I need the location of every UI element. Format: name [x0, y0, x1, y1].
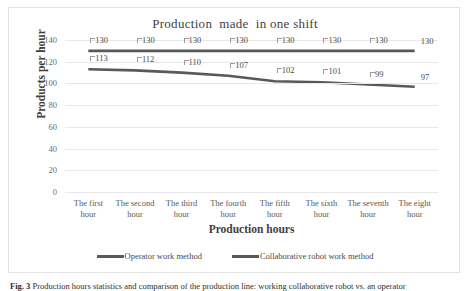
gridline [65, 62, 438, 63]
legend-item-1[interactable]: Operator work method [97, 251, 202, 261]
y-tick-label: 60 [17, 122, 57, 132]
gridline [65, 83, 438, 84]
data-label: 113 [95, 53, 107, 63]
y-tick-label: 20 [17, 165, 57, 175]
x-axis-tick-labels: The firsthourThe secondhourThe thirdhour… [65, 198, 438, 220]
data-label: 99 [375, 69, 384, 79]
x-category-label: The firsthour [65, 198, 112, 220]
caption-label: Fig. 3 [10, 281, 30, 291]
data-label: 130 [189, 35, 202, 45]
x-category-label: The fifthhour [252, 198, 299, 220]
data-label: 130 [235, 35, 248, 45]
data-label: 130 [95, 35, 108, 45]
x-category-label: The secondhour [112, 198, 159, 220]
data-label: 130 [282, 35, 295, 45]
x-category-label: The seventhhour [345, 198, 392, 220]
data-label: 130 [328, 35, 341, 45]
data-label: 102 [282, 65, 295, 75]
x-category-label: The sixthhour [298, 198, 345, 220]
y-tick-label: 40 [17, 144, 57, 154]
data-label: 110 [189, 57, 201, 67]
chart-legend: Operator work methodCollaborative robot … [9, 251, 461, 261]
chart-container: Production made in one shift Products pe… [8, 7, 460, 273]
data-label: 112 [142, 54, 154, 64]
gridline [65, 127, 438, 128]
y-tick-label: 0 [17, 187, 57, 197]
y-axis-tick-labels: 140120100806040200 [17, 40, 63, 192]
legend-swatch-icon [232, 255, 259, 258]
data-label: 130 [375, 35, 388, 45]
legend-label: Collaborative robot work method [260, 251, 374, 261]
figure-caption: Fig. 3 Production hours statistics and c… [10, 281, 466, 291]
x-category-label: The thirdhour [158, 198, 205, 220]
x-category-label: The eighthour [391, 198, 438, 220]
gridline [65, 149, 438, 150]
x-axis-title: Production hours [65, 223, 438, 235]
legend-label: Operator work method [125, 251, 202, 261]
data-label: 107 [235, 60, 248, 70]
data-label: 97 [421, 72, 430, 82]
data-label: 130 [142, 35, 155, 45]
plot-area: 1301301301301301301301301131121101071021… [65, 40, 438, 192]
gridline [65, 105, 438, 106]
y-tick-label: 140 [17, 35, 57, 45]
screenshot-root: Production made in one shift Products pe… [0, 0, 475, 291]
data-label: 101 [328, 66, 341, 76]
y-tick-label: 100 [17, 78, 57, 88]
y-tick-label: 80 [17, 100, 57, 110]
gridline [65, 192, 438, 193]
chart-title: Production made in one shift [9, 16, 461, 32]
y-tick-label: 120 [17, 57, 57, 67]
series-lines [65, 40, 438, 192]
gridline [65, 170, 438, 171]
data-label: 130 [421, 36, 434, 46]
legend-swatch-icon [97, 255, 124, 258]
legend-item-2[interactable]: Collaborative robot work method [232, 251, 374, 261]
x-category-label: The fourthhour [205, 198, 252, 220]
